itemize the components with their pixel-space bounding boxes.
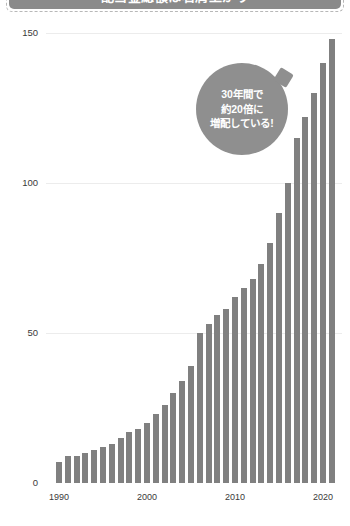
bar-2012 xyxy=(250,279,256,483)
bar-2007 xyxy=(206,324,212,483)
bar-1995 xyxy=(100,447,106,483)
bar-2017 xyxy=(294,138,300,483)
bar-series xyxy=(0,0,350,526)
bar-1997 xyxy=(118,438,124,483)
bar-2001 xyxy=(153,414,159,483)
bar-2018 xyxy=(302,117,308,483)
callout-line-1: 30年間で xyxy=(221,87,263,101)
bar-2006 xyxy=(197,333,203,483)
bar-2013 xyxy=(258,264,264,483)
bar-2016 xyxy=(285,183,291,483)
bar-1990 xyxy=(56,462,62,483)
bar-1992 xyxy=(74,456,80,483)
bar-2000 xyxy=(144,423,150,483)
bar-1994 xyxy=(91,450,97,483)
bar-2003 xyxy=(170,393,176,483)
bar-1996 xyxy=(109,444,115,483)
bar-2020 xyxy=(320,63,326,483)
callout-bubble: 30年間で 約20倍に 増配している! xyxy=(196,63,288,155)
bar-2004 xyxy=(179,381,185,483)
bar-1999 xyxy=(135,429,141,483)
bar-1998 xyxy=(126,432,132,483)
bar-2009 xyxy=(223,309,229,483)
bar-1991 xyxy=(65,456,71,483)
bar-2002 xyxy=(162,405,168,483)
bar-2021 xyxy=(329,39,335,483)
callout-line-3: 増配している! xyxy=(210,116,274,130)
bar-2011 xyxy=(241,288,247,483)
bar-2014 xyxy=(267,243,273,483)
bar-2008 xyxy=(214,315,220,483)
bar-2015 xyxy=(276,213,282,483)
bar-1993 xyxy=(82,453,88,483)
bar-2019 xyxy=(311,93,317,483)
bar-2010 xyxy=(232,297,238,483)
chart-page: 配当金総額は右肩上がり 0501001501990200020102020 30… xyxy=(0,0,350,526)
bar-2005 xyxy=(188,366,194,483)
callout-line-2: 約20倍に xyxy=(221,102,263,116)
